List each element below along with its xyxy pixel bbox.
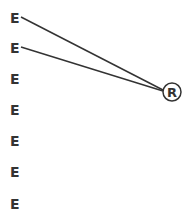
e-node-7: E	[10, 197, 20, 211]
e-node-6: E	[10, 165, 20, 179]
e-node-1: E	[10, 11, 20, 25]
r-node-label: R	[167, 85, 177, 100]
e-node-3: E	[10, 72, 20, 86]
e-node-5: E	[10, 134, 20, 148]
diagram-canvas: R	[0, 0, 188, 222]
e-node-4: E	[10, 103, 20, 117]
e-node-2: E	[10, 41, 20, 55]
